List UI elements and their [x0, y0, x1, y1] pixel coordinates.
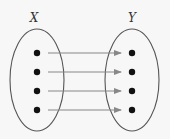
set-x-element-dot — [34, 69, 40, 75]
set-x-element-dot — [34, 50, 40, 56]
mapping-diagram: XY — [0, 0, 170, 139]
set-y-element-dot — [129, 50, 135, 56]
set-y-ellipse — [105, 29, 159, 131]
set-y-element-dot — [129, 88, 135, 94]
set-x-element-dot — [34, 107, 40, 113]
set-x-ellipse — [10, 29, 64, 131]
set-y-element-dot — [129, 69, 135, 75]
set-y-element-dot — [129, 107, 135, 113]
set-x-element-dot — [34, 88, 40, 94]
set-y: Y — [105, 11, 159, 131]
set-x: X — [10, 11, 64, 131]
set-y-label: Y — [128, 11, 137, 25]
set-x-label: X — [29, 11, 39, 25]
